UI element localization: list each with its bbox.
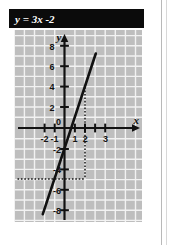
x-tick-label-1: 1 (73, 134, 78, 144)
y-tick-label-minus4: -4 (53, 165, 61, 175)
x-tick-label-minus2: -2 (40, 134, 48, 144)
graph-plot-area: y x -2 -1 0 1 2 3 8 6 4 2 -2 -4 -6 -8 (14, 30, 142, 222)
page-margin-rule-outer (166, 0, 167, 245)
y-tick-label-minus8: -8 (53, 206, 61, 216)
y-tick-label-2: 2 (49, 103, 54, 113)
y-tick-label-8: 8 (49, 42, 54, 52)
x-tick-label-3: 3 (103, 134, 108, 144)
figure-page: y = 3x -2 (0, 0, 170, 245)
y-tick-label-4: 4 (49, 82, 54, 92)
equation-title-banner: y = 3x -2 (9, 9, 144, 28)
origin-label: 0 (56, 117, 61, 127)
coordinate-graph-svg: y x -2 -1 0 1 2 3 8 6 4 2 -2 -4 -6 -8 (14, 30, 142, 222)
equation-title-text: y = 3x -2 (15, 13, 55, 25)
y-axis-name-label: y (55, 31, 62, 43)
y-tick-label-minus6: -6 (53, 186, 61, 196)
x-axis-name-label: x (133, 114, 140, 126)
plot-background (14, 30, 142, 222)
x-tick-label-2: 2 (83, 134, 88, 144)
y-tick-label-minus2: -2 (53, 145, 61, 155)
page-margin-rule-inner (161, 0, 162, 245)
y-tick-label-6: 6 (49, 62, 54, 72)
x-tick-label-minus1: -1 (51, 134, 59, 144)
